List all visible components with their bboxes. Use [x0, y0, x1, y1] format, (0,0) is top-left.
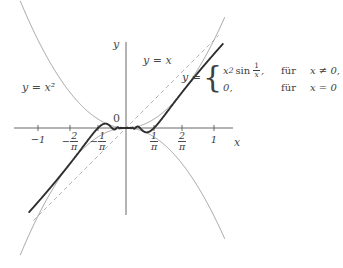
tick-label-text: −1 — [31, 134, 46, 145]
case-condition: x = 0 — [310, 82, 337, 93]
fraction-numerator: 2 — [70, 131, 78, 142]
curve-label-parabola: y = x² — [22, 81, 55, 94]
fraction-one-over-x: 1x — [253, 62, 260, 78]
fraction-denominator: π — [70, 142, 78, 152]
tick-label-text: 1 — [211, 134, 217, 145]
case-expression: 0, — [223, 82, 273, 93]
formula-case-zero: 0, für x = 0 — [223, 82, 340, 93]
left-brace-icon: { — [203, 65, 222, 90]
fraction-denominator: x — [253, 71, 260, 79]
fraction-numerator: 1 — [150, 131, 158, 142]
curve-label-identity: y = x — [143, 54, 172, 67]
figure-root: y x 0 y = x² y = x −1 − 2 π − 1 π 1 π 2 … — [0, 0, 343, 268]
case-condition: x ≠ 0, — [310, 65, 340, 76]
tick-label-minus-two-over-pi: − 2 π — [57, 131, 83, 151]
case-expression: x2sin1x, — [223, 62, 273, 78]
tick-label-minus-one: −1 — [26, 134, 50, 145]
tick-label-minus-one-over-pi: − 1 π — [85, 131, 111, 151]
fraction: 2 π — [178, 131, 186, 151]
formula-case-nonzero: x2sin1x, für x ≠ 0, — [223, 62, 340, 78]
tick-label-one: 1 — [203, 134, 225, 145]
tick-label-two-over-pi: 2 π — [170, 131, 194, 151]
exponent-two: 2 — [229, 66, 234, 75]
y-axis-label: y — [113, 38, 119, 51]
tick-sign: − — [90, 136, 98, 147]
fraction-numerator: 2 — [178, 131, 186, 142]
fraction: 1 π — [98, 131, 106, 151]
tick-label-one-over-pi: 1 π — [142, 131, 166, 151]
case-keyword-fuer: für — [281, 65, 303, 76]
fraction: 2 π — [70, 131, 78, 151]
fraction-denominator: π — [98, 142, 106, 152]
fraction: 1 π — [150, 131, 158, 151]
case-keyword-fuer: für — [281, 82, 303, 93]
x-axis-label: x — [234, 136, 240, 149]
sin-operator: sin — [235, 65, 250, 76]
piecewise-formula: y = { x2sin1x, für x ≠ 0, 0, für x = 0 — [182, 62, 340, 93]
formula-cases: x2sin1x, für x ≠ 0, 0, für x = 0 — [223, 62, 340, 93]
fraction-numerator: 1 — [98, 131, 106, 142]
origin-label: 0 — [113, 112, 120, 125]
fraction-denominator: π — [150, 142, 158, 152]
tick-sign: − — [62, 136, 70, 147]
formula-lhs: y = — [182, 71, 201, 84]
comma: , — [261, 65, 264, 76]
fraction-denominator: π — [178, 142, 186, 152]
